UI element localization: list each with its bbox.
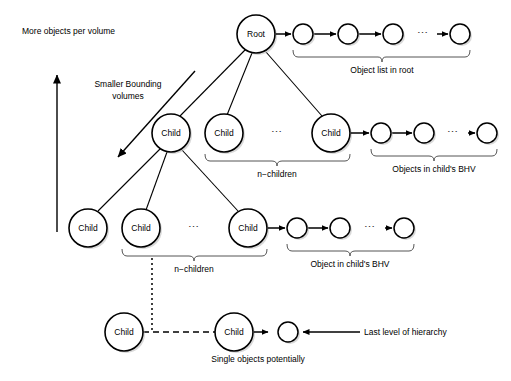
chain-ellipsis: ⋯	[364, 221, 376, 233]
object-node[interactable]	[477, 123, 499, 145]
object-node[interactable]	[414, 123, 436, 145]
level2-gap-ellipsis: ⋯	[271, 126, 283, 138]
object-node[interactable]	[394, 218, 416, 240]
node-level3-child-n[interactable]: Child	[229, 209, 269, 249]
level2-chain-caption: Objects in child's BHV	[392, 164, 476, 174]
level3-gap-ellipsis: ⋯	[188, 221, 200, 233]
brace-n-children-level2: n−children	[205, 154, 350, 179]
object-node[interactable]	[278, 322, 300, 344]
object-node[interactable]	[330, 218, 352, 240]
node-level2-child-n[interactable]: Child	[312, 114, 352, 154]
root-object-chain: ⋯ Object list in root	[276, 24, 472, 75]
brace-root-chain	[293, 50, 470, 62]
node-label: Child	[214, 128, 234, 138]
brace-level2-chain	[371, 149, 497, 161]
node-level4-child-2[interactable]: Child	[215, 313, 255, 353]
object-node[interactable]	[338, 24, 360, 46]
node-level3-child-2[interactable]: Child	[122, 209, 162, 249]
level2-object-chain: ⋯ Objects in child's BHV	[351, 123, 499, 174]
node-level3-child-1[interactable]: Child	[69, 209, 109, 249]
node-label: Child	[131, 223, 151, 233]
object-node[interactable]	[293, 24, 315, 46]
bvh-diagram: More objects per volume Smaller Bounding…	[0, 0, 511, 381]
object-node[interactable]	[371, 123, 393, 145]
diagonal-axis-label-line1: Smaller Bounding	[94, 79, 161, 89]
object-node[interactable]	[383, 24, 405, 46]
object-node[interactable]	[450, 24, 472, 46]
last-level-label: Last level of hierarchy	[364, 327, 447, 337]
root-chain-caption: Object list in root	[350, 65, 414, 75]
node-level4-child-1[interactable]: Child	[105, 313, 145, 353]
n-children-caption: n−children	[174, 264, 214, 274]
vertical-axis-label: More objects per volume	[22, 26, 115, 36]
node-label: Child	[78, 223, 98, 233]
tree-edges-root	[180, 50, 322, 116]
chain-ellipsis: ⋯	[447, 126, 459, 138]
node-label: Child	[114, 327, 134, 337]
level3-chain-caption: Object in child's BHV	[310, 259, 389, 269]
node-root[interactable]: Root	[237, 15, 277, 55]
node-level2-child-1[interactable]: Child	[152, 114, 192, 154]
object-node[interactable]	[287, 218, 309, 240]
single-objects-label: Single objects potentially	[211, 354, 305, 364]
chain-ellipsis: ⋯	[417, 27, 429, 39]
level3-object-chain: ⋯ Object in child's BHV	[268, 218, 416, 269]
diagram-canvas: More objects per volume Smaller Bounding…	[0, 0, 511, 381]
n-children-caption: n−children	[257, 169, 297, 179]
diagonal-axis-label-line2: volumes	[112, 91, 144, 101]
node-level2-child-2[interactable]: Child	[205, 114, 245, 154]
node-root-label: Root	[247, 29, 266, 39]
node-label: Child	[224, 327, 244, 337]
tree-edges-level2	[98, 149, 238, 211]
node-label: Child	[238, 223, 258, 233]
node-label: Child	[161, 128, 181, 138]
brace-level3-chain	[287, 244, 414, 256]
brace-n-children-level3: n−children	[122, 249, 267, 274]
node-label: Child	[321, 128, 341, 138]
